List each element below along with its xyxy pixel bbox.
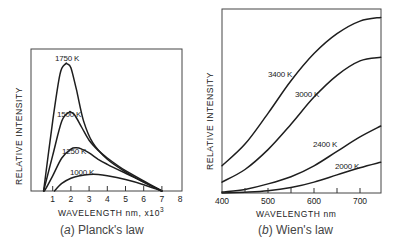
wien-caption-letter: b <box>262 223 269 237</box>
planck-x-ticks: 12345678 <box>50 186 182 204</box>
x-tick-label: 3 <box>87 194 92 204</box>
curve-label-1250k: 1250 K <box>62 147 87 156</box>
wien-caption-text: Wien's law <box>276 223 333 237</box>
x-tick-label: 5 <box>123 194 128 204</box>
x-tick-label: 1 <box>50 194 55 204</box>
wien-chart: 400500600700 3400 K3000 K2400 K2000 K RE… <box>205 9 381 237</box>
planck-x-axis-label: WAVELENGTH nm, x103 <box>58 206 164 218</box>
planck-caption-letter: a <box>64 223 71 237</box>
wien-y-axis-label: RELATIVE INTENSITY <box>205 72 215 170</box>
planck-chart: 12345678 1750 K1500 K1250 K1000 K RELATI… <box>14 49 183 237</box>
planck-x-axis-label-exponent: 3 <box>160 206 164 213</box>
planck-plot-frame <box>31 49 182 191</box>
x-tick-label: 6 <box>141 194 146 204</box>
x-tick-label: 500 <box>261 196 275 206</box>
planck-caption: (a) Planck's law <box>60 223 144 237</box>
planck-y-axis-label: RELATIVE INTENSITY <box>14 87 24 185</box>
curve-label-2400k: 2400 K <box>313 140 338 149</box>
x-tick-label: 8 <box>178 194 183 204</box>
curve-label-3400k: 3400 K <box>268 70 293 79</box>
curve-label-1750k: 1750 K <box>55 54 80 63</box>
curve-label-3000k: 3000 K <box>295 90 320 99</box>
curve-label-1500k: 1500 K <box>57 110 82 119</box>
x-tick-label: 400 <box>215 196 229 206</box>
x-tick-label: 700 <box>353 196 367 206</box>
x-tick-label: 7 <box>160 194 165 204</box>
wien-caption: (b) Wien's law <box>258 223 333 237</box>
planck-x-axis-label-text: WAVELENGTH nm, x10 <box>58 208 160 218</box>
x-tick-label: 4 <box>105 194 110 204</box>
wien-x-axis-label: WAVELENGTH nm <box>256 209 337 219</box>
curve-label-1000k: 1000 K <box>70 168 95 177</box>
curve-2400k <box>222 126 381 192</box>
curve-label-2000k: 2000 K <box>335 162 360 171</box>
wien-curve-labels: 3400 K3000 K2400 K2000 K <box>268 70 360 171</box>
x-tick-label: 2 <box>69 194 74 204</box>
planck-caption-text: Planck's law <box>78 223 144 237</box>
figure: 12345678 1750 K1500 K1250 K1000 K RELATI… <box>0 0 394 248</box>
curve-1750k <box>44 63 162 191</box>
planck-curves <box>44 63 162 191</box>
x-tick-label: 600 <box>307 196 321 206</box>
